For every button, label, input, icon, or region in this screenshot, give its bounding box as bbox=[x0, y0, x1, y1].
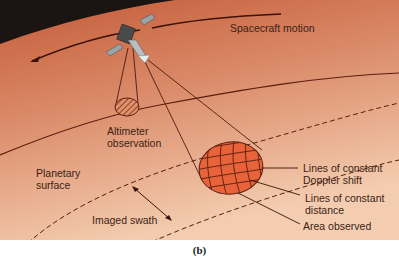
label-imaged-swath: Imaged swath bbox=[92, 214, 157, 226]
label-area-observed: Area observed bbox=[303, 220, 371, 232]
label-spacecraft-motion: Spacecraft motion bbox=[230, 22, 315, 34]
radar-diagram: Spacecraft motion Altimeter observation … bbox=[0, 0, 399, 240]
altimeter-footprint bbox=[115, 98, 139, 116]
label-lines-constant-doppler: Lines of constant Doppler shift bbox=[303, 162, 382, 186]
label-lines-constant-distance: Lines of constant distance bbox=[305, 192, 384, 216]
figure-caption: (b) bbox=[0, 244, 399, 256]
label-planetary-surface: Planetary surface bbox=[36, 167, 80, 191]
label-altimeter-observation: Altimeter observation bbox=[107, 125, 161, 149]
